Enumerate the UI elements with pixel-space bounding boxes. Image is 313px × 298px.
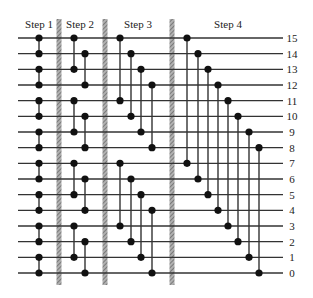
wire-label: 3 (289, 220, 295, 232)
comparator-node (127, 50, 134, 57)
comparator-node (81, 144, 88, 151)
sorting-network-diagram: 1514131211109876543210Step 1Step 2Step 3… (0, 0, 313, 298)
wire-label: 10 (287, 110, 299, 122)
comparator-node (245, 254, 252, 261)
wire-label: 5 (289, 189, 295, 201)
comparator-node (214, 207, 221, 214)
comparator-node (35, 50, 42, 57)
wire-label: 0 (289, 267, 295, 279)
comparator-node (35, 254, 42, 261)
comparator-node (148, 269, 155, 276)
comparator-node (81, 50, 88, 57)
comparator-node (81, 175, 88, 182)
comparator-node (183, 160, 190, 167)
comparator-node (35, 160, 42, 167)
wire-label: 9 (289, 126, 295, 138)
wire-label: 12 (287, 79, 298, 91)
comparator-node (35, 222, 42, 229)
comparator-node (35, 144, 42, 151)
comparator-node (35, 175, 42, 182)
comparator-node (35, 207, 42, 214)
comparator-node (81, 207, 88, 214)
comparator-node (35, 34, 42, 41)
step-label: Step 2 (66, 18, 94, 30)
step-divider (57, 19, 62, 285)
step-divider (103, 19, 108, 285)
comparator-node (127, 238, 134, 245)
comparator-node (224, 97, 231, 104)
comparator-node (204, 191, 211, 198)
comparator-node (116, 222, 123, 229)
wire-label: 14 (287, 48, 299, 60)
comparator-node (70, 97, 77, 104)
comparator-node (127, 113, 134, 120)
comparator-node (70, 66, 77, 73)
wire-label: 8 (289, 142, 295, 154)
comparator-node (234, 113, 241, 120)
comparator-node (116, 160, 123, 167)
comparator-node (35, 191, 42, 198)
comparator-node (137, 66, 144, 73)
comparator-node (137, 191, 144, 198)
comparator-node (255, 144, 262, 151)
comparator-node (81, 81, 88, 88)
step-label: Step 3 (124, 18, 152, 30)
comparator-node (224, 222, 231, 229)
comparator-node (35, 269, 42, 276)
comparator-node (214, 81, 221, 88)
comparator-node (35, 66, 42, 73)
comparator-node (245, 128, 252, 135)
comparator-node (70, 222, 77, 229)
wire-label: 11 (287, 95, 298, 107)
comparator-node (70, 34, 77, 41)
wire-label: 2 (289, 236, 295, 248)
wire-label: 15 (287, 32, 299, 44)
comparator-node (116, 34, 123, 41)
comparator-node (148, 207, 155, 214)
wire-label: 4 (289, 204, 295, 216)
comparator-node (35, 97, 42, 104)
comparator-node (255, 269, 262, 276)
wire-label: 1 (289, 251, 295, 263)
comparator-node (35, 238, 42, 245)
comparator-node (81, 269, 88, 276)
wire-label: 13 (287, 63, 299, 75)
comparator-node (70, 128, 77, 135)
comparator-node (194, 175, 201, 182)
comparator-node (70, 191, 77, 198)
comparator-node (194, 50, 201, 57)
comparator-node (70, 254, 77, 261)
step-divider (170, 19, 175, 285)
comparator-node (137, 128, 144, 135)
comparator-node (35, 128, 42, 135)
comparator-node (204, 66, 211, 73)
step-label: Step 1 (25, 18, 53, 30)
wire-label: 7 (289, 157, 295, 169)
comparator-node (81, 238, 88, 245)
comparator-node (116, 97, 123, 104)
comparator-node (148, 81, 155, 88)
comparator-node (35, 81, 42, 88)
comparator-node (148, 144, 155, 151)
comparator-node (81, 113, 88, 120)
comparator-node (137, 254, 144, 261)
comparator-node (35, 113, 42, 120)
wire-label: 6 (289, 173, 295, 185)
comparator-node (183, 34, 190, 41)
comparator-node (127, 175, 134, 182)
comparator-node (70, 160, 77, 167)
comparator-node (234, 238, 241, 245)
step-label: Step 4 (214, 18, 242, 30)
